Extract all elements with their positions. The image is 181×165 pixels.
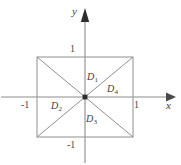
region-d4-base: D	[107, 83, 114, 94]
y-axis-arrowhead	[81, 8, 89, 22]
region-label-d2: D2	[51, 101, 62, 111]
y-axis-group	[81, 8, 89, 163]
y-axis-label: y	[72, 6, 77, 17]
origin-dot	[83, 95, 88, 100]
x-tick-negative-one: -1	[21, 100, 29, 110]
region-label-d3: D3	[86, 114, 97, 124]
region-label-d1: D1	[87, 72, 98, 82]
figure-container: y x 1 -1 -1 1 D1 D2 D3 D4	[0, 0, 181, 165]
y-tick-negative-one: -1	[67, 140, 75, 150]
region-d1-base: D	[87, 71, 94, 82]
region-d2-sub: 2	[59, 105, 63, 113]
x-tick-positive-one: 1	[134, 100, 139, 110]
coordinate-diagram-svg	[0, 0, 181, 165]
region-d4-sub: 4	[115, 88, 119, 96]
region-d1-sub: 1	[95, 76, 99, 84]
x-axis-label: x	[166, 100, 171, 111]
region-d3-base: D	[86, 113, 93, 124]
region-d3-sub: 3	[94, 118, 98, 126]
region-label-d4: D4	[107, 84, 118, 94]
region-d2-base: D	[51, 100, 58, 111]
y-tick-positive-one: 1	[70, 44, 75, 54]
